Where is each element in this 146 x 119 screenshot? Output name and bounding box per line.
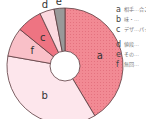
legend-item-d: d値段…: [116, 41, 146, 48]
slice-label-a: a: [97, 50, 103, 61]
slice-label-b: b: [41, 90, 47, 101]
slice-label-f: f: [30, 45, 34, 56]
legend-item-e: eその…: [116, 51, 146, 58]
slice-label-c: c: [40, 32, 46, 43]
legend: a相手…合こ… b味・… cデザ…パッ…セン… d値段… eその… f無回…: [116, 6, 146, 71]
donut-hole: [50, 51, 80, 81]
legend-item-c: cデザ…パッ…セン…: [116, 26, 146, 33]
slice-label-e: e: [56, 0, 62, 7]
legend-item-a: a相手…合こ…: [116, 6, 146, 13]
legend-item-b: b味・…: [116, 16, 146, 23]
slice-label-d: d: [42, 0, 48, 10]
legend-item-f: f無回…: [116, 61, 146, 68]
